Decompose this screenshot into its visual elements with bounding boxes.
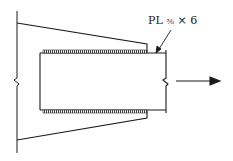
member (40, 50, 168, 113)
weld-bottom (43, 110, 147, 113)
plate-times: × (177, 14, 186, 27)
plate-label-prefix: PL (148, 14, 163, 27)
gusset-support-line (14, 11, 19, 153)
connection-diagram (0, 0, 233, 161)
label-leader (156, 30, 171, 53)
plate-label: PL ⅜ × 6 (148, 14, 197, 27)
force-arrow (176, 77, 220, 85)
plate-thickness: ⅜ (166, 17, 174, 26)
weld-top (43, 50, 147, 53)
plate-width: 6 (190, 14, 197, 27)
gusset-plate (17, 23, 147, 140)
